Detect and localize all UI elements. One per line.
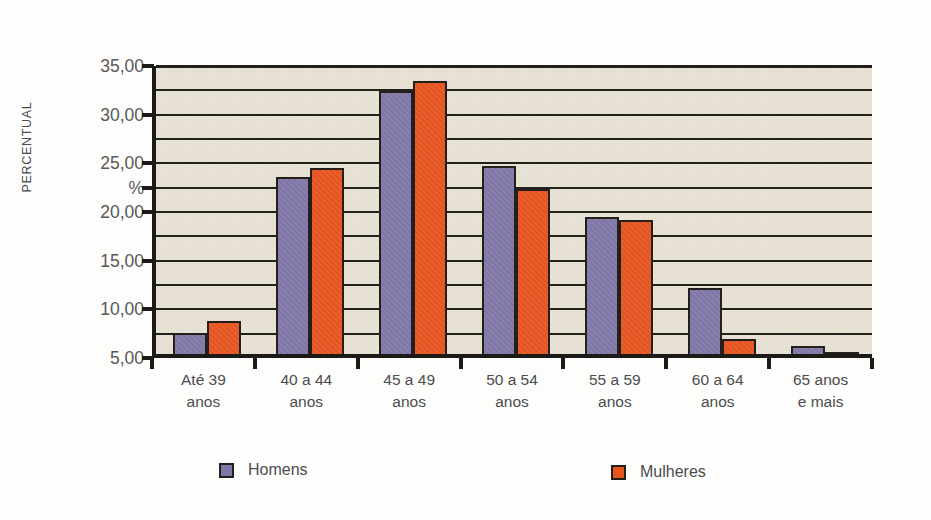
- bar-mulheres: [310, 168, 344, 354]
- plot-area: [152, 66, 872, 358]
- bar-group: [670, 66, 773, 354]
- y-tick-label: 15,00: [24, 250, 144, 271]
- bar-mulheres: [825, 352, 859, 354]
- x-axis-label-line: e mais: [751, 391, 891, 413]
- bar-homens: [379, 91, 413, 354]
- legend-swatch-homens-icon: [219, 463, 234, 478]
- y-tick-label: %: [24, 177, 144, 198]
- y-tick-label: 35,00: [24, 56, 144, 77]
- x-tick-mark: [459, 358, 463, 369]
- x-tick-mark: [356, 358, 360, 369]
- y-tick-mark: [142, 186, 154, 190]
- y-tick-mark: [142, 307, 154, 311]
- x-tick-mark: [664, 358, 668, 369]
- bar-group: [465, 66, 568, 354]
- bar-group: [156, 66, 259, 354]
- y-tick-label: 20,00: [24, 202, 144, 223]
- x-tick-mark: [870, 358, 874, 369]
- y-tick-mark: [142, 161, 154, 165]
- bar-homens: [276, 177, 310, 354]
- x-tick-mark: [767, 358, 771, 369]
- bar-mulheres: [207, 321, 241, 354]
- y-tick-mark: [142, 113, 154, 117]
- y-tick-mark: [142, 259, 154, 263]
- bar-group: [362, 66, 465, 354]
- legend-label-homens: Homens: [248, 461, 308, 479]
- bar-mulheres: [516, 189, 550, 354]
- bar-mulheres: [619, 220, 653, 354]
- bar-mulheres: [722, 339, 756, 354]
- bar-homens: [791, 346, 825, 354]
- bar-mulheres: [413, 81, 447, 354]
- legend-swatch-mulheres-icon: [611, 465, 626, 480]
- chart-legend: Homens Mulheres: [0, 459, 931, 499]
- bar-group: [259, 66, 362, 354]
- x-tick-mark: [561, 358, 565, 369]
- x-axis-label-line: 65 anos: [751, 369, 891, 391]
- bar-group: [567, 66, 670, 354]
- bar-homens: [688, 288, 722, 354]
- bar-homens: [173, 333, 207, 354]
- y-tick-label: 5,00: [24, 348, 144, 369]
- y-tick-mark: [142, 210, 154, 214]
- legend-entry-homens: Homens: [219, 461, 308, 479]
- y-tick-label: 25,00: [24, 153, 144, 174]
- y-tick-mark: [142, 64, 154, 68]
- legend-label-mulheres: Mulheres: [640, 463, 706, 481]
- x-axis-label: 65 anose mais: [751, 369, 891, 413]
- bar-homens: [482, 166, 516, 354]
- y-tick-label: 10,00: [24, 299, 144, 320]
- bar-chart: PERCENTUAL 35,0030,0025,00%20,0015,0010,…: [0, 0, 931, 520]
- y-tick-label: 30,00: [24, 104, 144, 125]
- x-tick-mark: [150, 358, 154, 369]
- legend-entry-mulheres: Mulheres: [611, 463, 706, 481]
- bar-group: [773, 66, 876, 354]
- x-tick-mark: [253, 358, 257, 369]
- bar-homens: [585, 217, 619, 354]
